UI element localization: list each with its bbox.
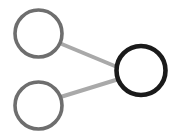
graph-canvas (0, 0, 178, 137)
node-right[interactable] (117, 46, 166, 95)
node-bottom-left[interactable] (15, 82, 62, 129)
nodes-layer (15, 10, 166, 129)
edge-bottom-left-to-right (61, 79, 120, 97)
edge-top-left-to-right (61, 44, 120, 69)
node-top-left[interactable] (15, 10, 62, 57)
graph-figure (0, 0, 178, 137)
edges-layer (61, 44, 120, 98)
